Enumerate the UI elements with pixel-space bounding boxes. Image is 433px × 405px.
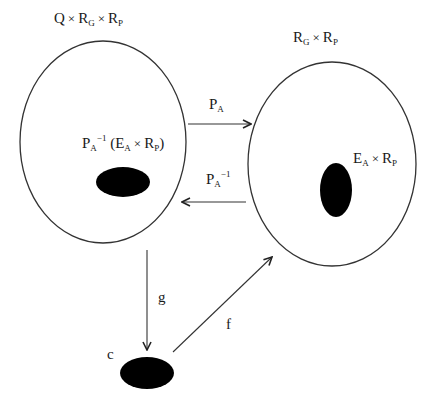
subscript-P: P (333, 37, 338, 47)
superscript-inverse: −1 (221, 169, 231, 179)
label-R: R (382, 150, 392, 166)
subscript-G: G (88, 18, 95, 28)
label-R: R (293, 29, 303, 45)
arrow-g-label: g (158, 290, 166, 305)
subscript-A: A (217, 104, 224, 114)
EA-region-label: EA×RP (353, 151, 397, 166)
subscript-A: A (362, 158, 369, 168)
times-symbol: × (68, 11, 75, 26)
label-R: R (144, 135, 154, 151)
label-c: c (107, 346, 114, 362)
mapping-diagram-canvas (0, 0, 433, 405)
subscript-A: A (124, 143, 131, 153)
arrow-PA-label: PA (209, 97, 224, 112)
label-R: R (323, 29, 333, 45)
subscript-A: A (90, 143, 97, 153)
label-R: R (108, 10, 118, 26)
times-symbol: × (98, 11, 105, 26)
label-f: f (226, 316, 231, 332)
close-paren: ) (159, 135, 164, 151)
left-preimage-blob (96, 167, 150, 197)
right-set-label: RG×RP (293, 30, 338, 45)
subscript-P: P (392, 158, 397, 168)
arrow-f (173, 257, 272, 352)
subscript-P: P (118, 18, 123, 28)
subscript-A: A (214, 179, 221, 189)
point-c-blob (120, 357, 174, 389)
label-E: E (115, 135, 124, 151)
superscript-inverse: −1 (97, 133, 107, 143)
times-symbol: × (313, 30, 320, 45)
label-Q: Q (54, 10, 65, 26)
label-g: g (158, 289, 166, 305)
subscript-G: G (303, 37, 310, 47)
preimage-label: PA−1 (EA×RP) (82, 136, 164, 151)
left-set-label: Q×RG×RP (54, 11, 123, 26)
label-R: R (78, 10, 88, 26)
right-EA-blob (320, 163, 352, 217)
point-c-label: c (107, 347, 114, 362)
label-E: E (353, 150, 362, 166)
times-symbol: × (372, 151, 379, 166)
arrow-PA-inverse-label: PA−1 (206, 172, 230, 187)
arrow-f-label: f (226, 317, 231, 332)
times-symbol: × (134, 136, 141, 151)
